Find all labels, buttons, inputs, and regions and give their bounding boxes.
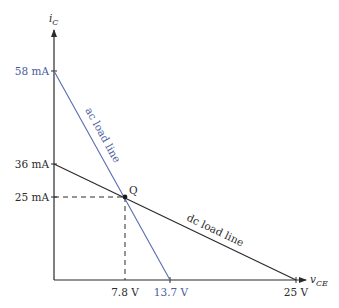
y-tick-58ma: 58 mA	[15, 65, 50, 77]
dc-load-line	[54, 164, 296, 280]
x-axis-label: vCE	[310, 273, 328, 288]
dc-load-line-label: dc load line	[185, 211, 246, 248]
y-tick-25ma: 25 mA	[15, 191, 50, 203]
x-tick-13-7v: 13.7 V	[154, 286, 189, 298]
q-label: Q	[129, 184, 138, 196]
y-axis-label: iC	[49, 12, 58, 27]
load-line-diagram: Q iC vCE 58 mA 36 mA 25 mA 7.8 V 13.7 V …	[0, 0, 339, 308]
y-tick-36ma: 36 mA	[15, 158, 50, 170]
ac-load-line	[54, 71, 170, 280]
x-tick-7-8v: 7.8 V	[111, 286, 139, 298]
x-tick-25v: 25 V	[284, 286, 309, 298]
q-point	[123, 195, 128, 200]
